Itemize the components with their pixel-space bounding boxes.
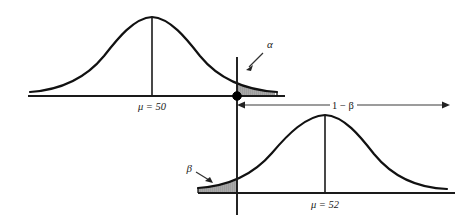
null-distribution-group: μ = 50 xyxy=(28,17,285,112)
alpha-leader-line xyxy=(249,53,263,67)
beta-label: β xyxy=(186,162,193,174)
alt-mean-label: μ = 52 xyxy=(310,199,340,210)
power-analysis-figure: μ = 50 μ = 52 α xyxy=(0,0,469,224)
beta-annotation: β xyxy=(186,162,213,183)
power-label: 1 − β xyxy=(332,100,354,111)
critical-value-point xyxy=(233,92,242,101)
alpha-annotation: α xyxy=(246,38,273,71)
alpha-label: α xyxy=(267,38,273,50)
null-mean-label: μ = 50 xyxy=(137,101,167,112)
null-distribution-curve xyxy=(30,17,277,92)
power-span-arrowhead-right xyxy=(442,102,450,109)
alt-distribution-curve xyxy=(198,115,447,189)
beta-leader-line xyxy=(196,172,209,180)
power-span-annotation: 1 − β xyxy=(237,100,450,111)
power-span-arrowhead-left xyxy=(237,102,245,109)
